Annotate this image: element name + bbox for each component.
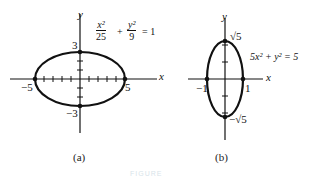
- plot-b-equation: 5x² + y² = 5: [250, 52, 298, 62]
- plot-b: [188, 18, 263, 140]
- plot-b-label-y-neg: −√5: [229, 114, 247, 125]
- plot-b-y-axis-label: y: [222, 11, 227, 22]
- plot-a-caption: (a): [73, 151, 85, 163]
- plot-b-caption: (b): [215, 151, 228, 163]
- figure-canvas: [0, 0, 316, 177]
- plot-a-label-y-neg: −3: [66, 108, 78, 119]
- plot-b-x-axis-label: x: [266, 72, 271, 83]
- plot-a-label-x-pos: 5: [125, 82, 131, 93]
- plot-a-eq-y-term: y² 9: [127, 20, 136, 42]
- plot-a-label-x-neg: −5: [21, 82, 33, 93]
- plot-a-eq-x-term: x² 25: [96, 20, 106, 42]
- plot-a-eq-plus: +: [117, 27, 123, 37]
- plot-a-eq-rhs: = 1: [142, 27, 155, 37]
- plot-b-left-x-axis-label: x: [159, 71, 164, 82]
- plot-a-y-axis-label: y: [78, 9, 83, 20]
- figure-footer-caption: FIGURE: [130, 170, 162, 177]
- plot-b-label-x-neg: −1: [196, 83, 208, 94]
- plot-b-label-x-pos: 1: [245, 83, 251, 94]
- plot-b-label-y-pos: √5: [230, 31, 242, 42]
- plot-a-label-y-pos: 3: [72, 40, 78, 51]
